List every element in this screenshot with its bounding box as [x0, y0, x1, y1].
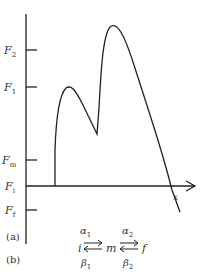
state-i: i: [78, 242, 82, 255]
label-f1: F1: [3, 81, 16, 96]
state-f: f: [141, 242, 148, 255]
x-axis-label: x: [173, 192, 178, 202]
rate-alpha1: α1: [80, 225, 91, 239]
rate-beta2: β2: [122, 257, 133, 271]
rate-alpha2: α2: [122, 225, 133, 239]
label-fm: Fm: [1, 154, 17, 169]
kinetic-scheme: i α1 β1 m α2 β2 f: [78, 225, 148, 271]
panel-b-label: (b): [6, 254, 20, 265]
state-m: m: [106, 242, 116, 255]
panel-a-label: (a): [6, 231, 20, 242]
label-f2: F2: [3, 44, 16, 59]
free-energy-curve: [55, 26, 180, 212]
label-fi: Fi: [4, 180, 16, 195]
energy-landscape-diagram: F2 F1 Fm Fi Ff x (a) (b) i α1 β1 m α2 β2…: [0, 0, 202, 274]
label-ff: Ff: [4, 204, 17, 219]
rate-beta1: β1: [80, 257, 91, 271]
